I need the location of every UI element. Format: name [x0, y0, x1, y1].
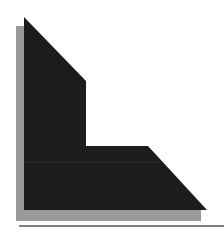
- graphic-svg: [0, 0, 224, 234]
- l-shape-icon: [24, 17, 207, 210]
- l-corner-graphic: L-shaped corner graphic with drop shadow: [0, 0, 224, 234]
